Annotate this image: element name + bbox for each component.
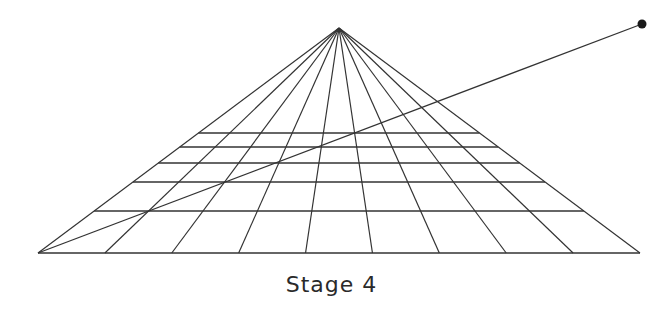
orthogonal-line [339, 28, 372, 253]
perspective-grid-diagram [0, 0, 663, 309]
orthogonal-line [38, 28, 339, 253]
orthogonal-line [172, 28, 339, 253]
orthogonal-line [105, 28, 339, 253]
orthogonal-line [339, 28, 640, 253]
diagonal-line [38, 24, 642, 253]
orthogonal-line [339, 28, 439, 253]
stage-caption: Stage 4 [0, 272, 663, 297]
distance-point-dot [638, 20, 647, 29]
orthogonal-line [239, 28, 339, 253]
transversal-lines [38, 133, 640, 253]
orthogonal-line [339, 28, 573, 253]
orthogonal-line [339, 28, 506, 253]
